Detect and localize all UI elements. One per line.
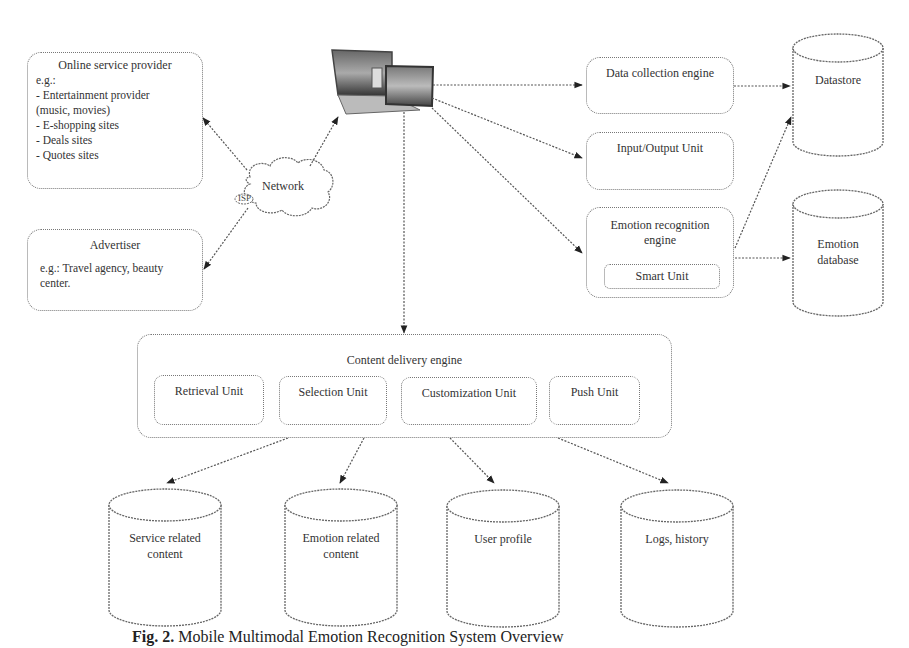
selection-unit-label: Selection Unit xyxy=(280,385,386,400)
provider-line: - Deals sites xyxy=(36,133,194,148)
advertiser-box: Advertiser e.g.: Travel agency, beauty c… xyxy=(27,229,203,311)
selection-unit-box: Selection Unit xyxy=(279,376,387,425)
logs-history-label: Logs, history xyxy=(621,532,733,547)
data-collection-engine-box: Data collection engine xyxy=(586,57,734,114)
emotion-engine-title-line2: engine xyxy=(587,233,733,248)
online-service-provider-box: Online service provider e.g.: - Entertai… xyxy=(27,52,203,189)
isp-label: ISP xyxy=(238,193,251,203)
emotion-engine-title-line1: Emotion recognition xyxy=(587,218,733,233)
provider-line: e.g.: xyxy=(36,73,194,88)
provider-line: - E-shopping sites xyxy=(36,118,194,133)
figure-caption-label: Fig. 2. xyxy=(132,628,174,645)
input-output-unit-box: Input/Output Unit xyxy=(586,132,734,190)
emotion-recognition-engine-box: Emotion recognition engine Smart Unit xyxy=(586,207,734,298)
datastore-label: Datastore xyxy=(793,73,883,88)
customization-unit-box: Customization Unit xyxy=(401,377,537,425)
emotion-database-label-line2: database xyxy=(793,253,883,268)
content-delivery-engine-title: Content delivery engine xyxy=(138,353,671,368)
emotion-database-label-line1: Emotion xyxy=(793,237,883,252)
service-related-content-label-line2: content xyxy=(109,547,221,562)
retrieval-unit-box: Retrieval Unit xyxy=(154,375,264,425)
push-unit-box: Push Unit xyxy=(549,376,640,425)
push-unit-label: Push Unit xyxy=(550,385,639,400)
advertiser-line: e.g.: Travel agency, beauty xyxy=(40,261,190,276)
emotion-related-content-label-line2: content xyxy=(285,547,397,562)
customization-unit-label: Customization Unit xyxy=(402,386,536,401)
figure-caption-text: Mobile Multimodal Emotion Recognition Sy… xyxy=(178,628,563,645)
online-service-provider-title: Online service provider xyxy=(36,58,194,73)
retrieval-unit-label: Retrieval Unit xyxy=(155,384,263,399)
input-output-unit-title: Input/Output Unit xyxy=(587,141,733,156)
smart-unit-box: Smart Unit xyxy=(604,264,720,289)
laptop-tablet-icon xyxy=(332,50,433,114)
provider-line: (music, movies) xyxy=(36,103,194,118)
emotion-related-content-label-line1: Emotion related xyxy=(285,531,397,546)
smart-unit-label: Smart Unit xyxy=(605,269,719,284)
user-profile-label: User profile xyxy=(447,532,559,547)
provider-line: - Entertainment provider xyxy=(36,88,194,103)
advertiser-line: center. xyxy=(40,276,190,291)
figure-caption: Fig. 2. Mobile Multimodal Emotion Recogn… xyxy=(132,628,564,646)
provider-line: - Quotes sites xyxy=(36,148,194,163)
network-label: Network xyxy=(262,179,304,194)
data-collection-engine-title: Data collection engine xyxy=(587,66,733,81)
content-delivery-engine-box: Content delivery engine Retrieval Unit S… xyxy=(137,334,672,438)
advertiser-title: Advertiser xyxy=(40,238,190,253)
service-related-content-label-line1: Service related xyxy=(109,531,221,546)
